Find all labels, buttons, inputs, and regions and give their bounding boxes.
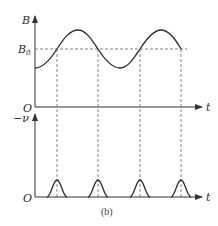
lower-x-axis-label: t	[206, 191, 211, 204]
upper-x-axis-label: t	[206, 101, 211, 114]
figure-caption: (b)	[101, 206, 113, 218]
upper-plot: B B0 O t	[17, 14, 211, 115]
crossing-lines	[57, 49, 181, 197]
lower-origin-label: O	[23, 192, 32, 205]
upper-y-axis-label: B	[21, 14, 30, 27]
b0-label: B0	[17, 43, 31, 57]
figure-canvas: B B0 O t −ν O t (b)	[0, 0, 218, 226]
lower-y-axis-label: −ν	[13, 112, 29, 125]
